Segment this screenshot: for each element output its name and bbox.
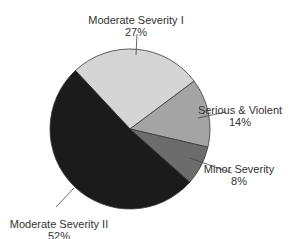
slice-label-minor-severity: Minor Severity 8%: [204, 163, 274, 187]
slice-name: Moderate Severity I: [88, 14, 183, 26]
slice-label-moderate-severity-ii: Moderate Severity II 52%: [10, 218, 108, 239]
slice-name: Moderate Severity II: [10, 218, 108, 230]
slice-percent: 14%: [198, 116, 282, 128]
slice-name: Minor Severity: [204, 163, 274, 175]
slice-label-moderate-severity-i: Moderate Severity I 27%: [88, 14, 183, 38]
slice-percent: 8%: [204, 175, 274, 187]
slice-label-serious-violent: Serious & Violent 14%: [198, 104, 282, 128]
pie-slices: [50, 49, 210, 209]
slice-percent: 52%: [10, 230, 108, 239]
leader-line: [56, 188, 74, 207]
slice-percent: 27%: [88, 26, 183, 38]
slice-name: Serious & Violent: [198, 104, 282, 116]
